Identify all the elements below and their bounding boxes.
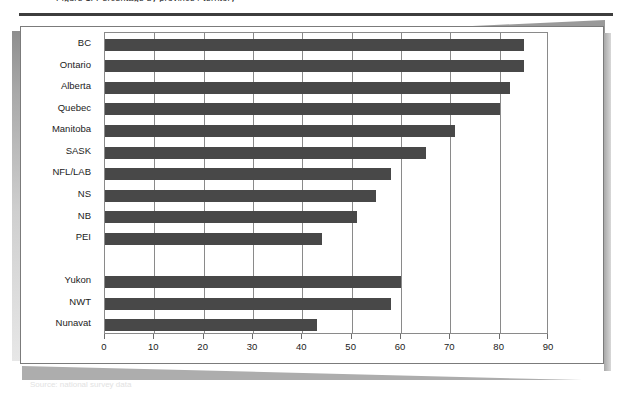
category-label-ontario: Ontario: [60, 54, 91, 76]
x-tick-40: [301, 334, 302, 339]
x-tick-70: [449, 334, 450, 339]
category-label-manitoba: Manitoba: [52, 118, 91, 140]
category-label-yukon: Yukon: [65, 269, 91, 291]
category-label-sask: SASK: [66, 140, 91, 162]
value-axis: 0102030405060708090: [104, 334, 548, 358]
bar-row: [105, 227, 547, 249]
bar-nwt: [105, 298, 391, 310]
x-tick-label-70: 70: [444, 341, 455, 352]
bar-row: [105, 162, 547, 184]
bar-nunavat: [105, 319, 317, 331]
bar-nfl-lab: [105, 168, 391, 180]
bar-row: [105, 206, 547, 228]
category-label-nwt: NWT: [69, 291, 91, 313]
x-tick-80: [499, 334, 500, 339]
x-tick-0: [104, 334, 105, 339]
bar-row: [105, 270, 547, 292]
category-label-quebec: Quebec: [58, 97, 91, 119]
x-tick-label-0: 0: [101, 341, 106, 352]
bar-quebec: [105, 103, 500, 115]
x-tick-label-30: 30: [247, 341, 258, 352]
x-tick-label-40: 40: [296, 341, 307, 352]
bar-row: [105, 313, 547, 335]
bar-ns: [105, 190, 376, 202]
plot-area: [104, 32, 548, 334]
bar-row: [105, 76, 547, 98]
bar-row: [105, 55, 547, 77]
bar-ontario: [105, 60, 524, 72]
figure-root: Figure 1. Percentage by province / terri…: [0, 0, 625, 394]
x-tick-label-80: 80: [493, 341, 504, 352]
category-label-ns: NS: [78, 183, 91, 205]
bar-series: [105, 33, 547, 333]
bar-chart: BCOntarioAlbertaQuebecManitobaSASKNFL/LA…: [0, 0, 625, 394]
x-tick-30: [252, 334, 253, 339]
bar-sask: [105, 147, 426, 159]
category-label-nb: NB: [78, 205, 91, 227]
bar-pei: [105, 233, 322, 245]
bar-row: [105, 33, 547, 55]
x-tick-label-60: 60: [395, 341, 406, 352]
bar-row: [105, 292, 547, 314]
x-tick-50: [351, 334, 352, 339]
x-tick-label-50: 50: [345, 341, 356, 352]
bar-manitoba: [105, 125, 455, 137]
bar-nb: [105, 211, 357, 223]
bar-row: [105, 184, 547, 206]
bar-row: [105, 141, 547, 163]
category-label-bc: BC: [78, 32, 91, 54]
category-label-alberta: Alberta: [61, 75, 91, 97]
category-label-nunavat: Nunavat: [56, 312, 91, 334]
bar-row: [105, 98, 547, 120]
bar-yukon: [105, 276, 401, 288]
footer-ghost-text: Source: national survey data: [30, 380, 330, 390]
x-tick-10: [153, 334, 154, 339]
x-tick-label-90: 90: [543, 341, 554, 352]
x-tick-90: [547, 334, 548, 339]
x-tick-20: [203, 334, 204, 339]
bar-bc: [105, 39, 524, 51]
bar-alberta: [105, 82, 510, 94]
category-axis-labels: BCOntarioAlbertaQuebecManitobaSASKNFL/LA…: [0, 32, 99, 334]
x-tick-60: [400, 334, 401, 339]
bar-row: [105, 119, 547, 141]
category-label-pei: PEI: [76, 226, 91, 248]
category-label-nfl-lab: NFL/LAB: [52, 161, 91, 183]
bar-row: [105, 249, 547, 271]
x-tick-label-20: 20: [197, 341, 208, 352]
x-tick-label-10: 10: [148, 341, 159, 352]
